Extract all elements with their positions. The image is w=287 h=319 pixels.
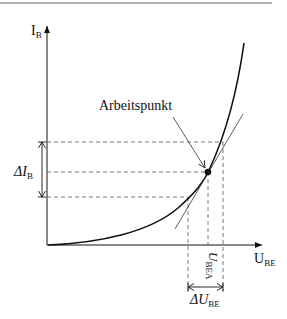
x-axis-label: UBE — [254, 251, 276, 268]
ubea-label: UBEA — [204, 252, 221, 280]
delta-ube-label: ΔUBE — [189, 292, 220, 309]
operating-point-marker — [205, 169, 212, 176]
delta-ib-label: ΔIB — [13, 164, 33, 181]
diode-characteristic-diagram: IB UBE Arbeitspunkt ΔIB UBEA ΔUBE — [0, 0, 287, 319]
operating-point-pointer — [173, 117, 205, 168]
characteristic-curve — [48, 43, 244, 245]
y-axis-label: IB — [31, 23, 42, 40]
operating-point-label: Arbeitspunkt — [99, 98, 172, 113]
